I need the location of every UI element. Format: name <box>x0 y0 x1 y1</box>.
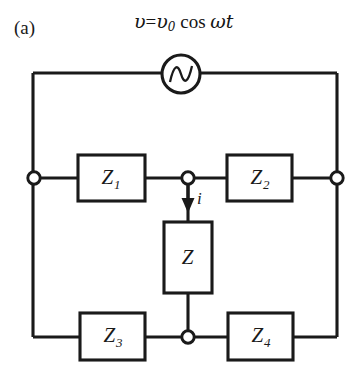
panel-label: (a) <box>14 17 35 39</box>
impedance-label-z4-base: Z <box>251 323 263 347</box>
node-center-bottom <box>182 331 194 343</box>
source-equation-label: υ=υ0 cos ωt <box>134 10 233 34</box>
impedance-label-z4-subscript: 4 <box>264 335 271 350</box>
node-left-terminal <box>28 172 40 184</box>
impedance-label-z-base: Z <box>182 245 194 269</box>
circuit-diagram-figure: (a) υ=υ0 cos ωt Z1 Z2 Z Z3 Z4 i <box>0 0 359 385</box>
equation-amplitude-symbol: υ <box>156 10 168 32</box>
impedance-label-z1-subscript: 1 <box>114 177 121 192</box>
impedance-label-z3: Z3 <box>103 323 122 351</box>
impedance-label-z2-base: Z <box>250 165 262 189</box>
circuit-schematic <box>0 0 359 385</box>
equation-lhs-symbol: υ <box>134 10 146 32</box>
equation-time-symbol: t <box>226 10 234 32</box>
equation-amplitude-subscript: 0 <box>168 20 176 34</box>
impedance-label-z2-subscript: 2 <box>263 177 270 192</box>
impedance-label-z3-base: Z <box>103 323 115 347</box>
node-right-terminal <box>331 172 343 184</box>
impedance-label-z4: Z4 <box>251 323 270 351</box>
current-label-i: i <box>197 189 202 209</box>
impedance-label-z: Z <box>182 245 195 273</box>
impedance-label-z2: Z2 <box>250 165 269 193</box>
current-arrow-head <box>182 198 195 213</box>
equation-cosine-function: cos <box>180 11 205 32</box>
impedance-label-z1-base: Z <box>101 165 113 189</box>
impedance-label-z3-subscript: 3 <box>116 335 123 350</box>
current-arrow-i <box>182 184 195 213</box>
impedance-label-z1: Z1 <box>101 165 120 193</box>
equation-equals-sign: = <box>146 11 157 32</box>
equation-omega-symbol: ω <box>210 10 226 32</box>
node-center-top <box>182 172 194 184</box>
